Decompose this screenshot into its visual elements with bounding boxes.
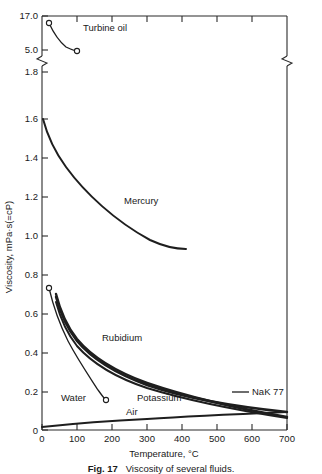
y-tick-label: 0.4 [25,347,38,358]
x-tick-label: 400 [174,433,190,444]
svg-text:Fig. 17 Viscosity of several: Fig. 17 Viscosity of several fluids. [88,463,235,474]
caption-label: Fig. 17 [88,463,118,474]
y-tick-label: 1.8 [25,66,38,77]
x-tick-label: 500 [209,433,225,444]
series-label-nak-77: NaK 77 [252,386,284,397]
series-turbine-oil: Turbine oil [46,20,127,53]
y-tick-label: 5.0 [25,44,38,55]
series-mercury: Mercury [43,119,186,249]
x-tick-label: 100 [69,433,85,444]
y-tick-label: 1.4 [25,152,38,163]
viscosity-figure: 0 100 200 300 400 500 600 700 Temperatur… [0,0,322,474]
caption-text: Viscosity of several fluids. [126,463,235,474]
y-axis-label: Viscosity, mPa·s(=cP) [3,201,14,293]
x-axis-label: Temperature, °C [129,448,198,459]
series-label-mercury: Mercury [124,195,159,206]
y-tick-label: 0.8 [25,269,38,280]
y-tick-label: 0.2 [25,386,38,397]
turbine-oil-end-marker [74,48,79,53]
x-axis-ticks [42,424,287,430]
x-tick-label: 300 [139,433,155,444]
y-axis-ticks-lower [42,119,48,430]
series-potassium: Potassium [56,302,287,418]
y-tick-label: 1.0 [25,230,38,241]
series-label-water: Water [61,392,86,403]
x-tick-label: 700 [279,433,295,444]
y-tick-label: 1.6 [25,113,38,124]
series-label-potassium: Potassium [137,392,181,403]
turbine-oil-start-marker [46,20,51,25]
figure-caption: Fig. 17 Viscosity of several fluids. [88,463,235,474]
series-label-air: Air [126,406,138,417]
x-tick-label: 200 [104,433,120,444]
water-start-marker [46,285,51,290]
y-tick-label: 1.2 [25,191,38,202]
x-tick-label: 0 [39,433,44,444]
y-tick-label: 17.0 [20,10,39,21]
axis-break-left [37,56,47,66]
x-tick-label: 600 [244,433,260,444]
plot-frame [42,16,287,430]
y-axis-tick-labels-lower: 1.6 1.4 1.2 1.0 0.8 0.6 0.4 0.2 0 [25,113,38,436]
water-end-marker [103,397,108,402]
x-axis-tick-labels: 0 100 200 300 400 500 600 700 [39,433,295,444]
series-label-turbine-oil: Turbine oil [83,22,127,33]
viscosity-chart-svg: 0 100 200 300 400 500 600 700 Temperatur… [0,0,322,474]
y-tick-label: 0 [33,425,38,436]
axis-break-right [282,56,292,66]
y-axis-tick-labels-upper: 17.0 5.0 1.8 [20,10,39,77]
series-label-rubidium: Rubidium [102,332,142,343]
y-tick-label: 0.6 [25,308,38,319]
